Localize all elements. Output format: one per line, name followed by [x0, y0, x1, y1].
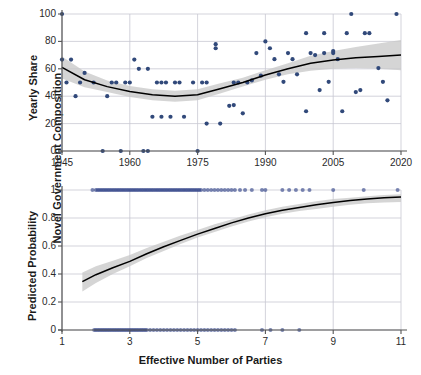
bottom-panel-x-axis-label: Effective Number of Parties — [0, 354, 421, 366]
x-tick-label: 2020 — [376, 157, 421, 168]
y-tick-label: 80 — [24, 35, 56, 46]
x-tick-label: 7 — [240, 336, 290, 347]
y-tick-label: 20 — [24, 118, 56, 129]
y-tick-label: 0.4 — [24, 268, 56, 279]
x-tick-label: 3 — [105, 336, 155, 347]
top-panel-plot — [0, 0, 421, 178]
x-tick-label: 5 — [173, 336, 223, 347]
x-tick-label: 1960 — [105, 157, 155, 168]
y-tick-label: 40 — [24, 90, 56, 101]
x-tick-label: 9 — [308, 336, 358, 347]
x-tick-label: 1 — [37, 336, 87, 347]
x-tick-label: 11 — [376, 336, 421, 347]
bottom-panel: Predicted Probability Effective Number o… — [0, 178, 421, 375]
y-tick-label: 0.8 — [24, 212, 56, 223]
y-tick-label: 1 — [24, 184, 56, 195]
x-tick-label: 1990 — [240, 157, 290, 168]
top-panel: Yearly Share 020406080100194519601975199… — [0, 0, 421, 178]
y-tick-label: 0.6 — [24, 240, 56, 251]
x-tick-label: 1945 — [37, 157, 87, 168]
x-tick-label: 1975 — [173, 157, 223, 168]
y-tick-label: 100 — [24, 8, 56, 19]
y-tick-label: 60 — [24, 63, 56, 74]
x-tick-label: 2005 — [308, 157, 358, 168]
y-tick-label: 0 — [24, 324, 56, 335]
y-tick-label: 0 — [24, 145, 56, 156]
y-tick-label: 0.2 — [24, 296, 56, 307]
figure-container: Novel Government Composition Yearly Shar… — [0, 0, 421, 375]
